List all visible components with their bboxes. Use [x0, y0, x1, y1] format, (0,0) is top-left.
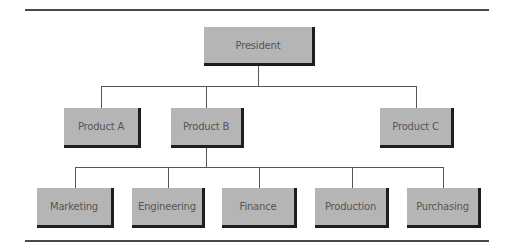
node-product-c: Product C: [380, 108, 454, 148]
node-engineering-label: Engineering: [138, 201, 196, 212]
node-purchasing-label: Purchasing: [416, 201, 469, 212]
node-marketing-label: Marketing: [50, 201, 98, 212]
connector-upper-bus: [101, 86, 417, 87]
node-product-a-label: Product A: [78, 121, 124, 132]
top-rule: [25, 9, 489, 11]
node-finance: Finance: [222, 188, 297, 228]
connector-product-b-down: [206, 148, 207, 168]
node-product-b: Product B: [171, 108, 244, 148]
node-product-b-label: Product B: [183, 121, 229, 132]
node-marketing: Marketing: [37, 188, 114, 228]
connector-president: [258, 66, 259, 87]
node-production: Production: [315, 188, 389, 228]
connector-production: [352, 167, 353, 188]
connector-marketing: [75, 167, 76, 188]
node-president: President: [204, 27, 315, 66]
node-engineering: Engineering: [132, 188, 205, 228]
connector-purchasing: [443, 167, 444, 188]
node-finance-label: Finance: [240, 201, 277, 212]
node-president-label: President: [236, 40, 281, 51]
node-production-label: Production: [325, 201, 376, 212]
node-product-a: Product A: [64, 108, 141, 148]
node-purchasing: Purchasing: [407, 188, 481, 228]
connector-engineering: [168, 167, 169, 188]
connector-product-a: [101, 86, 102, 108]
connector-product-c: [416, 86, 417, 108]
connector-finance: [259, 167, 260, 188]
node-product-c-label: Product C: [392, 121, 438, 132]
bottom-rule: [25, 240, 489, 242]
connector-product-b: [206, 86, 207, 108]
